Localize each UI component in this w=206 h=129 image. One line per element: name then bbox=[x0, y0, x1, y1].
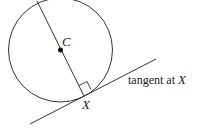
tangent-diagram: C X tangent at X bbox=[0, 0, 206, 129]
tangent-label: tangent at X bbox=[128, 72, 187, 87]
point-label: X bbox=[81, 97, 91, 112]
tangent-line bbox=[30, 59, 156, 124]
center-label: C bbox=[62, 34, 71, 49]
right-angle-marker bbox=[79, 82, 91, 90]
